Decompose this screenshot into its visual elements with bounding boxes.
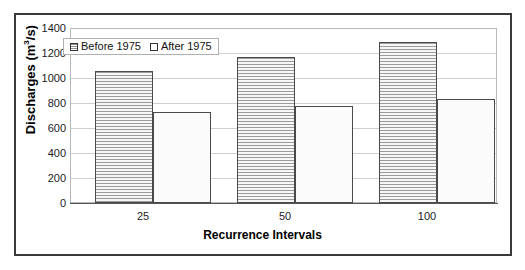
- legend-swatch-icon: [150, 43, 158, 51]
- bar-before-1975-50[interactable]: [237, 57, 295, 203]
- y-tick-label: 1000: [32, 73, 66, 84]
- legend-label: After 1975: [161, 41, 212, 52]
- bar-after-1975-50[interactable]: [295, 106, 353, 204]
- bar-after-1975-25[interactable]: [153, 112, 211, 203]
- figure: Discharges (m3/s) 1400 1200 1000 800 600…: [0, 0, 525, 270]
- y-tick-label: 1200: [32, 48, 66, 59]
- legend: Before 1975 After 1975: [63, 38, 219, 55]
- x-tick-label-25: 25: [113, 210, 173, 222]
- y-tick-label: 1400: [32, 23, 66, 34]
- x-tick-label-50: 50: [255, 210, 315, 222]
- x-tick-label-100: 100: [397, 210, 457, 222]
- legend-item-before-1975[interactable]: Before 1975: [70, 41, 141, 52]
- bar-before-1975-100[interactable]: [379, 42, 437, 203]
- x-axis-line: [70, 203, 498, 204]
- legend-label: Before 1975: [81, 41, 141, 52]
- legend-swatch-icon: [70, 43, 78, 51]
- legend-item-after-1975[interactable]: After 1975: [150, 41, 212, 52]
- y-tick-label: 0: [32, 198, 66, 209]
- y-tick-label: 400: [32, 148, 66, 159]
- bar-before-1975-25[interactable]: [95, 71, 153, 204]
- y-tick-label: 800: [32, 98, 66, 109]
- y-tick-label: 600: [32, 123, 66, 134]
- bar-chart: Discharges (m3/s) 1400 1200 1000 800 600…: [0, 0, 525, 270]
- y-tick-label: 200: [32, 173, 66, 184]
- x-axis-title: Recurrence Intervals: [0, 228, 525, 242]
- bar-after-1975-100[interactable]: [437, 99, 495, 203]
